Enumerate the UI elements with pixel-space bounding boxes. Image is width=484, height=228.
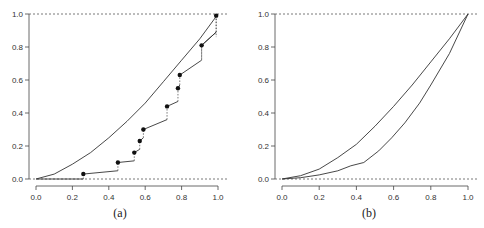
data-point [81, 172, 85, 176]
panel-a: 0.00.20.40.60.81.00.00.20.40.60.81.0 [12, 10, 228, 202]
x-tick-label: 0.4 [351, 193, 363, 202]
data-point [132, 150, 136, 154]
y-tick-label: 0.2 [258, 142, 270, 151]
x-tick-label: 1.0 [462, 193, 474, 202]
y-tick-label: 0.2 [12, 142, 24, 151]
y-tick-label: 0.0 [258, 175, 270, 184]
y-tick-label: 0.0 [12, 175, 24, 184]
step-segment [118, 161, 134, 163]
data-point [178, 73, 182, 77]
y-tick-label: 0.4 [258, 109, 270, 118]
data-point [176, 86, 180, 90]
x-tick-label: 0.6 [388, 193, 400, 202]
panel-b: 0.00.20.40.60.81.00.00.20.40.60.81.0 [258, 10, 478, 202]
x-tick-label: 0.0 [30, 193, 42, 202]
x-tick-label: 0.8 [176, 193, 188, 202]
data-point [116, 160, 120, 164]
data-point [138, 139, 142, 143]
data-point [199, 43, 203, 47]
smooth-curve-line [36, 14, 218, 179]
x-tick-label: 0.2 [314, 193, 326, 202]
x-tick-label: 0.2 [67, 193, 79, 202]
step-series [36, 13, 218, 179]
y-tick-label: 0.8 [12, 43, 24, 52]
y-tick-label: 0.4 [12, 109, 24, 118]
step-segment [180, 60, 202, 75]
data-point [214, 13, 218, 17]
caption-a: (a) [113, 206, 126, 220]
data-point [141, 127, 145, 131]
x-tick-label: 0.6 [140, 193, 152, 202]
chart-figure: 0.00.20.40.60.81.00.00.20.40.60.81.0 0.0… [0, 0, 484, 228]
step-segment [83, 171, 118, 174]
caption-b: (b) [362, 206, 376, 220]
lower-curve-line [282, 14, 468, 179]
y-tick-label: 0.6 [258, 76, 270, 85]
step-segment [143, 120, 167, 130]
x-tick-label: 1.0 [212, 193, 224, 202]
y-tick-label: 0.8 [258, 43, 270, 52]
step-segment [202, 32, 217, 45]
x-tick-label: 0.8 [425, 193, 437, 202]
y-tick-label: 1.0 [258, 10, 270, 19]
y-tick-label: 1.0 [12, 10, 24, 19]
y-tick-label: 0.6 [12, 76, 24, 85]
data-point [165, 104, 169, 108]
x-tick-label: 0.0 [276, 193, 288, 202]
x-tick-label: 0.4 [103, 193, 115, 202]
